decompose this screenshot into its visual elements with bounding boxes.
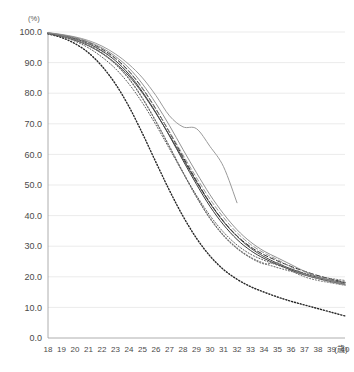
x-axis-tick-labels: 1819202122232425262728293031323334353637…: [44, 345, 350, 354]
y-axis-tick-label: 70.0: [24, 119, 42, 129]
series-line: [48, 34, 345, 281]
x-axis-tick-label: 35: [273, 345, 282, 354]
x-axis-tick-label: 22: [98, 345, 107, 354]
y-axis-tick-label: 20.0: [24, 272, 42, 282]
x-axis-tick-label: 20: [71, 345, 80, 354]
line-chart: 0.010.020.030.040.050.060.070.080.090.01…: [0, 0, 354, 372]
data-series-lines: [48, 33, 345, 316]
series-line: [48, 33, 345, 285]
series-line: [48, 34, 345, 286]
x-axis-tick-label: 31: [219, 345, 228, 354]
x-axis-tick-label: 32: [233, 345, 242, 354]
x-axis-tick-label: 34: [260, 345, 269, 354]
x-axis-tick-label: 19: [57, 345, 66, 354]
y-axis-tick-label: 30.0: [24, 241, 42, 251]
series-line: [48, 33, 345, 282]
x-axis-tick-label: 36: [287, 345, 296, 354]
x-axis-tick-label: 27: [165, 345, 174, 354]
y-axis-tick-label: 10.0: [24, 303, 42, 313]
x-axis-tick-label: 23: [111, 345, 120, 354]
x-axis-unit-label: (歳): [334, 344, 348, 354]
y-axis-tick-label: 60.0: [24, 150, 42, 160]
series-line: [48, 33, 345, 285]
y-axis-tick-label: 40.0: [24, 211, 42, 221]
x-axis-tick-label: 21: [84, 345, 93, 354]
y-axis-tick-label: 80.0: [24, 88, 42, 98]
x-axis-tick-label: 33: [246, 345, 255, 354]
y-axis-tick-label: 90.0: [24, 58, 42, 68]
series-line: [48, 33, 237, 203]
x-axis-tick-label: 29: [192, 345, 201, 354]
y-axis-tick-label: 100.0: [19, 27, 42, 37]
x-axis-tick-label: 37: [300, 345, 309, 354]
x-axis-tick-label: 24: [125, 345, 134, 354]
series-line: [48, 34, 345, 283]
x-axis-tick-label: 38: [314, 345, 323, 354]
series-line: [48, 33, 345, 282]
y-axis-tick-labels: 0.010.020.030.040.050.060.070.080.090.01…: [19, 27, 42, 343]
x-axis-tick-label: 28: [179, 345, 188, 354]
chart-container: 0.010.020.030.040.050.060.070.080.090.01…: [0, 0, 354, 372]
y-axis-tick-label: 0.0: [29, 333, 42, 343]
x-axis-tick-label: 26: [152, 345, 161, 354]
gridlines: [48, 32, 345, 307]
x-axis-tick-label: 25: [138, 345, 147, 354]
y-axis-unit-label: (%): [28, 14, 40, 23]
x-axis-tick-label: 30: [206, 345, 215, 354]
x-axis-tick-label: 18: [44, 345, 53, 354]
y-axis-tick-label: 50.0: [24, 180, 42, 190]
